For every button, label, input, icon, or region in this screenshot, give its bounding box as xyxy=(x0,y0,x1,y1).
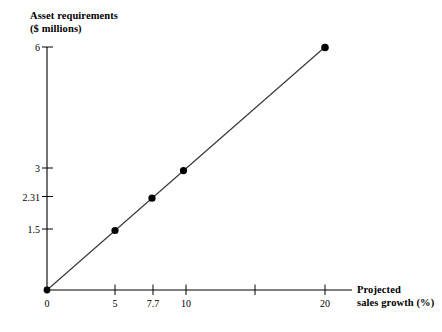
x-tick-label-7-7: 7.7 xyxy=(147,298,160,309)
x-tick-label-5: 5 xyxy=(113,298,118,309)
x-axis-title: Projected sales growth (%) xyxy=(357,283,434,309)
y-axis-title-line1: Asset requirements xyxy=(30,9,118,22)
y-axis-title: Asset requirements ($ millions) xyxy=(30,9,118,35)
y-axis-title-line2: ($ millions) xyxy=(30,22,118,35)
x-axis-title-line1: Projected xyxy=(357,283,434,296)
y-tick-label-3: 3 xyxy=(35,163,40,174)
data-point-10 xyxy=(180,167,187,174)
x-tick-label-0: 0 xyxy=(45,298,50,309)
x-axis-title-line2: sales growth (%) xyxy=(357,296,434,309)
data-point-7-7 xyxy=(148,195,155,202)
y-tick-label-6: 6 xyxy=(35,42,40,53)
chart-container: Asset requirements ($ millions) Projecte… xyxy=(0,0,442,332)
data-point-5 xyxy=(111,227,118,234)
x-tick-label-10: 10 xyxy=(181,298,191,309)
y-tick-label-2-31: 2.31 xyxy=(23,192,41,203)
data-point-0 xyxy=(44,287,51,294)
y-tick-label-1-5: 1.5 xyxy=(28,224,41,235)
data-point-20 xyxy=(321,44,329,52)
x-tick-label-20: 20 xyxy=(320,298,330,309)
